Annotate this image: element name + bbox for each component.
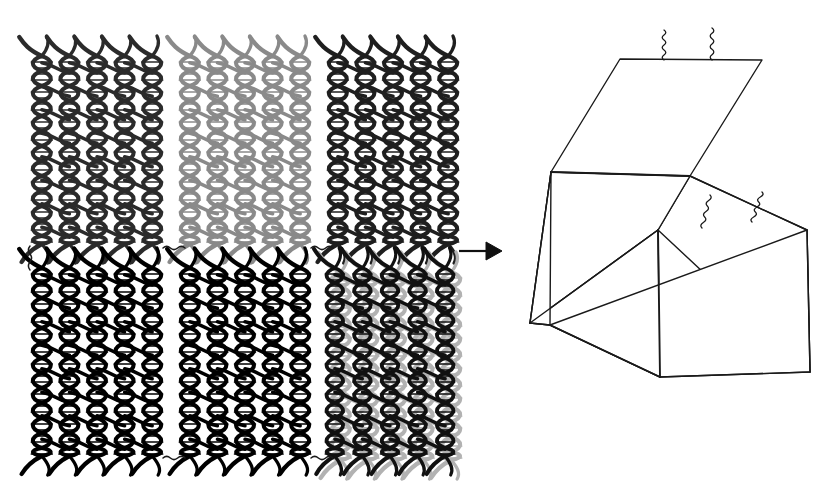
- figure-canvas: [0, 0, 822, 490]
- dna-origami-assembly-figure: [0, 0, 822, 490]
